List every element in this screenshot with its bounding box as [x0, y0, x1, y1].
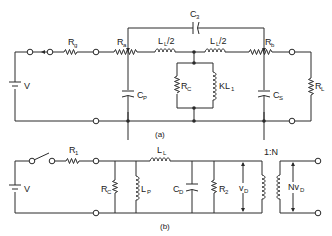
inductor-ll-half-left: L L /2 — [155, 36, 205, 52]
terminal — [93, 118, 99, 124]
svg-text:L: L — [321, 86, 325, 92]
terminal — [47, 49, 53, 55]
svg-text:L: L — [157, 145, 162, 155]
svg-text:P: P — [143, 95, 147, 101]
circuit-diagram: V R g R a C P — [0, 0, 332, 236]
battery-source-b: V — [9, 161, 30, 213]
svg-text:a: a — [123, 42, 127, 48]
inductor-ll-b: L L — [150, 145, 262, 161]
svg-text:1: 1 — [75, 150, 79, 156]
terminal — [93, 49, 99, 55]
svg-text:C: C — [107, 189, 112, 195]
svg-text:3: 3 — [196, 14, 200, 20]
terminal — [29, 158, 35, 164]
battery-source-a: V — [9, 52, 30, 121]
terminal — [289, 49, 295, 55]
resistor-r2: R 2 — [212, 161, 230, 213]
svg-text:1: 1 — [231, 86, 235, 92]
svg-text:L: L — [158, 36, 163, 46]
capacitor-cs: C S — [258, 90, 283, 101]
svg-text:/2: /2 — [167, 36, 175, 46]
svg-text:S: S — [279, 95, 283, 101]
terminal — [27, 49, 33, 55]
shunt-rc-kl1: R C KL 1 — [174, 52, 235, 121]
svg-text:D: D — [179, 189, 184, 195]
svg-text:g: g — [74, 42, 77, 48]
terminal — [289, 118, 295, 124]
svg-text:KL: KL — [219, 81, 230, 91]
svg-text:Nv: Nv — [288, 182, 299, 192]
inductor-lp: L P — [136, 161, 151, 213]
turns-ratio: 1:N — [264, 147, 278, 157]
svg-text:L: L — [210, 36, 215, 46]
switch-blade — [34, 153, 49, 160]
terminal — [315, 210, 321, 216]
svg-text:C: C — [187, 86, 192, 92]
resistor-rl: R L — [295, 52, 325, 121]
transformer: 1:N — [262, 147, 280, 213]
resistor-r1: R 1 — [55, 145, 93, 164]
svg-text:L: L — [163, 150, 167, 156]
capacitor-cp: C P — [122, 90, 147, 101]
svg-text:D: D — [244, 188, 249, 194]
capacitor-cd: C D — [173, 161, 198, 213]
circuit-a: V R g R a C P — [9, 9, 325, 140]
terminal — [315, 158, 321, 164]
svg-text:P: P — [147, 189, 151, 195]
terminal — [93, 210, 99, 216]
terminal — [49, 158, 55, 164]
svg-text:D: D — [300, 187, 305, 193]
arrow-icon — [41, 50, 45, 54]
tapped-resistor-rb: R b — [249, 37, 289, 55]
svg-text:/2: /2 — [219, 36, 227, 46]
tapped-resistor-ra: R a — [99, 28, 155, 140]
voltage-arrow-nvd: Nv D — [288, 162, 305, 212]
circuit-b: V R 1 R C L P L L — [9, 145, 321, 231]
voltage-arrow-vd: v D — [239, 162, 249, 212]
caption-b: (b) — [160, 222, 170, 231]
capacitor-c3: C 3 — [128, 9, 264, 140]
resistor-rg: R g — [53, 37, 93, 55]
battery-label-a: V — [24, 81, 30, 91]
terminal — [93, 158, 99, 164]
svg-text:2: 2 — [225, 189, 229, 195]
svg-text:L: L — [141, 184, 146, 194]
svg-text:b: b — [271, 42, 275, 48]
svg-text:V: V — [24, 184, 30, 194]
caption-a: (a) — [155, 130, 165, 139]
inductor-ll-half-right: L L /2 — [205, 36, 249, 52]
resistor-rc-b: R C — [101, 161, 118, 213]
